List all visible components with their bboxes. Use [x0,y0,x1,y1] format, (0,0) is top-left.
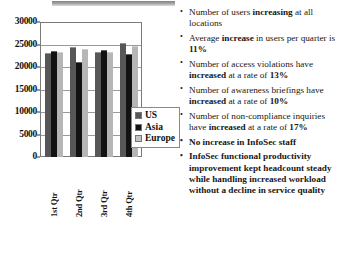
bullet-text-run: Number of access violations have [189,59,313,69]
bullet-text-run: Average [189,33,222,43]
bar-chart: 300002500020000150001000050000 1st Qtr2n… [0,22,176,222]
y-axis-tick-label: 25000 [15,40,37,50]
bullet-text-run: 13% [270,70,288,80]
x-axis-tick-label: 3rd Qtr [99,159,109,217]
y-axis-tick-mark [37,112,40,113]
bullet-text-run: increased [189,70,226,80]
legend-item-asia: Asia [135,123,175,133]
bar-group [45,22,63,157]
bullet-infosec-productivity: InfoSec functional productivity improvem… [178,151,344,196]
y-axis-tick-mark [37,44,40,45]
x-axis-label-cell: 4th Qtr [119,159,140,217]
bullet-average-increase: Average increase in users per quarter is… [178,33,344,55]
bullet-users-increasing: Number of users increasing at all locati… [178,7,344,29]
bar-europe [107,52,113,157]
legend-swatch-icon [135,135,142,142]
legend-label: Asia [145,123,163,133]
bullet-text-run: No increase in InfoSec staff [189,137,296,147]
bar-europe [57,52,63,157]
x-axis-tick-label: 4th Qtr [124,159,134,217]
bullet-text-run: 10% [270,96,288,106]
bar-groups [41,22,142,157]
bullet-text-run: increase [222,33,254,43]
legend-item-europe: Europe [135,134,175,144]
bullet-text-run: 17% [289,122,307,132]
bullet-list: Number of users increasing at all locati… [178,7,344,196]
x-axis-label-cell: 2nd Qtr [68,159,89,217]
y-axis-tick-mark [37,157,40,158]
x-axis-label-cell: 3rd Qtr [94,159,115,217]
bullet-awareness-briefings: Number of awareness briefings have incre… [178,85,344,107]
chart-legend: USAsiaEurope [131,107,180,148]
y-axis-tick-mark [37,89,40,90]
bullet-text-run: increased [209,122,246,132]
bullets-pane: Number of users increasing at all locati… [176,0,348,264]
bar-europe [82,49,88,157]
bullet-text-run: Number of awareness briefings have [189,85,324,95]
bullet-no-increase-staff: No increase in InfoSec staff [178,137,344,148]
x-axis-label-cell: 1st Qtr [43,159,64,217]
bullet-text-run: at a rate of [246,122,290,132]
legend-swatch-icon [135,124,142,131]
y-axis-labels: 300002500020000150001000050000 [0,22,40,157]
chart-pane: 300002500020000150001000050000 1st Qtr2n… [0,0,176,264]
bullet-text-run: in users per quarter is [254,33,335,43]
bullet-non-compliance-inquiries: Number of non-compliance inquiries have … [178,111,344,133]
x-axis-tick-label: 1st Qtr [49,159,59,217]
y-axis-tick-mark [37,67,40,68]
legend-label: US [145,111,157,121]
x-axis-labels: 1st Qtr2nd Qtr3rd Qtr4th Qtr [41,159,142,217]
legend-item-us: US [135,111,175,121]
bullet-text-run: at a rate of [226,70,270,80]
bullet-text-run: at a rate of [226,96,270,106]
legend-swatch-icon [135,112,142,119]
bullet-text-run: increasing [253,7,293,17]
bar-group [95,22,113,157]
bullet-text-run: Number of users [189,7,253,17]
bar-group [70,22,88,157]
bullet-access-violations: Number of access violations have increas… [178,59,344,81]
y-axis-tick-label: 20000 [15,62,37,72]
y-axis-tick-mark [37,134,40,135]
y-axis-tick-label: 15000 [15,85,37,95]
x-axis-tick-label: 2nd Qtr [74,159,84,217]
slide-root: 300002500020000150001000050000 1st Qtr2n… [0,0,348,264]
bullet-text-run: InfoSec functional productivity improvem… [189,151,332,195]
legend-label: Europe [145,134,175,144]
y-axis-tick-label: 30000 [15,17,37,27]
bullet-text-run: 11% [189,44,207,54]
bullet-text-run: increased [189,96,226,106]
y-axis-tick-label: 5000 [19,130,37,140]
y-axis-tick-mark [37,22,40,23]
y-axis-tick-label: 10000 [15,107,37,117]
